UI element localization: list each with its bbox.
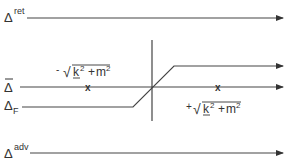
delta-ret-symbol: Δ <box>4 10 13 25</box>
svg-text:+: + <box>218 102 225 116</box>
svg-text:2: 2 <box>106 64 111 73</box>
delta-f-symbol: Δ <box>4 98 13 113</box>
svg-text:m: m <box>96 65 106 79</box>
retarded-contour: Δ ret <box>4 6 283 25</box>
delta-ret-superscript: ret <box>14 6 25 16</box>
positive-pole-marker: x <box>215 82 221 93</box>
delta-bar-symbol: Δ <box>4 80 13 95</box>
positive-pole-label: + √ k 2 + m 2 <box>186 101 241 117</box>
delta-adv-symbol: Δ <box>4 146 13 161</box>
svg-text:k: k <box>73 65 80 79</box>
delta-adv-superscript: adv <box>14 142 29 152</box>
svg-text:-: - <box>56 64 59 75</box>
negative-pole-label: - √ k 2 + m 2 <box>56 64 111 80</box>
svg-text:2: 2 <box>80 64 85 73</box>
svg-text:2: 2 <box>210 101 215 110</box>
feynman-contour: Δ F <box>4 66 283 116</box>
svg-text:+: + <box>186 101 192 112</box>
delta-f-subscript: F <box>13 106 19 116</box>
advanced-contour: Δ adv <box>4 142 283 161</box>
bar-contour: Δ <box>4 79 283 95</box>
svg-text:+: + <box>88 65 95 79</box>
svg-text:2: 2 <box>236 101 241 110</box>
svg-text:√: √ <box>63 64 71 80</box>
svg-text:√: √ <box>193 101 201 117</box>
svg-text:k: k <box>203 102 210 116</box>
svg-text:m: m <box>226 102 236 116</box>
negative-pole-marker: x <box>85 82 91 93</box>
contour-diagram: Δ ret - √ k 2 + m 2 Δ x x Δ F + √ k 2 + <box>0 0 291 162</box>
